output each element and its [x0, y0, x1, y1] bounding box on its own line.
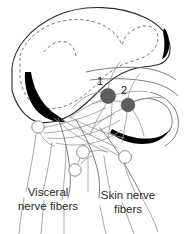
fiber-n2-f	[128, 74, 140, 98]
fiber-n1-e	[114, 91, 148, 95]
fiber-n2-d	[133, 110, 144, 136]
skin-label-line-1: Skin nerve	[88, 189, 168, 203]
neuron-label-2: 2	[121, 84, 127, 96]
neuron-label-1: 1	[97, 75, 103, 87]
visceral-nerve-fibers-label: Visceral nerve fibers	[5, 186, 91, 213]
neuron-soma-1	[101, 89, 116, 104]
ganglion-cell-4	[119, 151, 132, 164]
visceral-label-line-2: nerve fibers	[5, 200, 91, 214]
anatomy-figure: 1 2 Visceral nerve fibers Skin nerve fib…	[0, 0, 186, 234]
ganglion-cell-1	[32, 121, 44, 133]
cord-detail-right-lobe-inner	[133, 99, 172, 132]
ganglion-cell-2	[77, 146, 90, 159]
fiber-skin-2	[104, 156, 110, 190]
skin-label-line-2: fibers	[88, 203, 168, 217]
ganglion-cell-3	[69, 164, 81, 176]
fiber-visceral-1	[26, 134, 36, 192]
visceral-label-line-1: Visceral	[5, 186, 91, 200]
skin-nerve-fibers-label: Skin nerve fibers	[88, 189, 168, 216]
neuron-soma-2	[121, 98, 135, 112]
